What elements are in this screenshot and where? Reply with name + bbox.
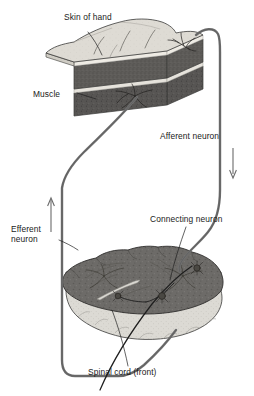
label-muscle: Muscle	[33, 89, 60, 99]
label-efferent-neuron-line1: Efferent	[11, 224, 59, 234]
label-afferent-neuron: Afferent neuron	[160, 131, 219, 141]
skin-of-hand-block	[46, 19, 203, 116]
afferent-direction-arrow	[230, 148, 237, 178]
label-connecting-neuron: Connecting neuron	[150, 214, 222, 224]
reflex-arc-figure: Skin of hand Muscle Afferent neuron Effe…	[0, 0, 254, 396]
gray-matter-surface	[63, 246, 224, 314]
label-efferent-neuron: Efferent neuron	[11, 224, 59, 244]
label-skin-of-hand: Skin of hand	[62, 12, 114, 23]
label-spinal-cord: Spinal cord (front)	[88, 367, 156, 377]
reflex-arc-illustration	[0, 0, 254, 396]
spinal-cord	[63, 246, 224, 339]
label-efferent-neuron-line2: neuron	[11, 234, 59, 244]
